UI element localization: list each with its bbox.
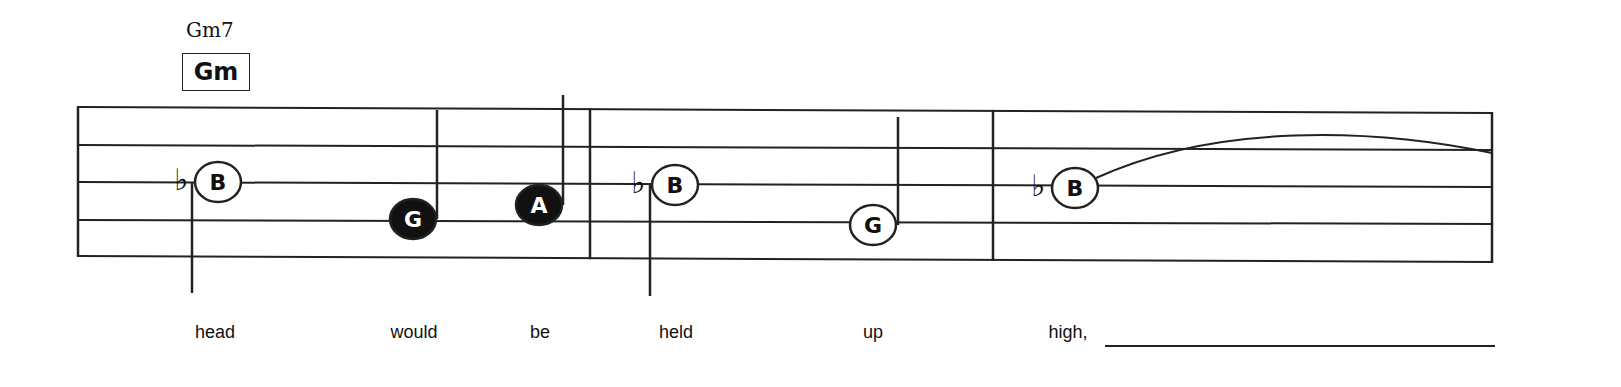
lyric-word: up [863, 322, 883, 343]
lyric-word: be [530, 322, 550, 343]
note-letter: G [864, 213, 882, 238]
flat-icon: ♭ [174, 162, 188, 197]
note-b: B♭ [1031, 135, 1492, 208]
tie-arc [1096, 135, 1492, 178]
staff-line [78, 182, 1492, 187]
note-g: G [390, 110, 437, 239]
note-a: A [516, 95, 563, 225]
staff-lines [78, 107, 1492, 262]
flat-icon: ♭ [631, 165, 645, 200]
music-staff: B♭GAB♭GB♭ [0, 0, 1621, 387]
note-letter: B [667, 173, 684, 198]
notes: B♭GAB♭GB♭ [174, 95, 1492, 296]
note-letter: B [1067, 176, 1084, 201]
note-letter: A [530, 193, 547, 218]
lyric-extender-line [1105, 345, 1495, 347]
note-b: B♭ [174, 162, 241, 293]
note-g: G [850, 117, 898, 245]
staff-line [78, 220, 1492, 224]
note-letter: B [210, 170, 227, 195]
staff-line [78, 145, 1492, 150]
staff-line [78, 107, 1492, 113]
lyric-word: high, [1048, 322, 1087, 343]
lyric-word: would [390, 322, 437, 343]
note-b: B♭ [631, 165, 698, 296]
staff-line [78, 256, 1492, 262]
note-letter: G [404, 207, 422, 232]
flat-icon: ♭ [1031, 168, 1045, 203]
lyric-word: held [659, 322, 693, 343]
lyric-word: head [195, 322, 235, 343]
